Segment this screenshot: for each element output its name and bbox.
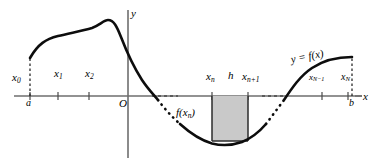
origin-label-O: O [119,98,127,109]
curve-segment-left [30,20,158,100]
axis-label-x0: x0 [12,72,21,84]
axis-label-xn: xn [206,71,215,83]
riemann-rectangle [212,96,248,141]
axis-label-xN: xN [341,72,350,83]
axis-label-xn-plus-1: xn+1 [242,71,259,83]
axis-label-b: b [349,98,354,108]
rectangle-height-label: f(xn) [176,107,195,119]
figure-container: x0 a x1 x2 y O xn h xn+1 f(xn) y = f(x) … [0,0,373,167]
axis-label-y: y [131,8,136,19]
axis-label-x: x [363,91,368,102]
axis-label-x2: x2 [85,68,94,80]
axis-label-x1: x1 [54,68,63,80]
axis-label-xN-minus-1: xN−1 [309,73,324,82]
axis-label-a: a [26,98,31,108]
interval-width-label-h: h [228,70,234,81]
curve-segment-dotted-right [266,100,284,124]
figure-svg [0,0,373,167]
